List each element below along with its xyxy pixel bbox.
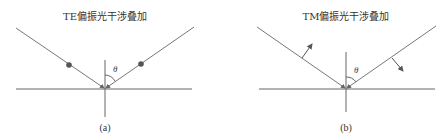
panel-a-title: TE偏振光干涉叠加	[63, 10, 147, 22]
interference-diagram: TE偏振光干涉叠加 θ (a) TM偏振光干涉叠加 θ (b)	[0, 0, 448, 140]
te-dot-left-icon	[66, 62, 72, 68]
tm-arrow-right-icon	[392, 58, 403, 71]
te-dot-right-icon	[138, 61, 144, 67]
panel-a-te: TE偏振光干涉叠加 θ (a)	[16, 10, 194, 134]
incident-ray-right	[347, 26, 436, 88]
theta-label: θ	[113, 64, 118, 74]
panel-a-caption: (a)	[99, 122, 110, 134]
panel-b-caption: (b)	[340, 122, 352, 134]
tm-arrow-left-icon	[302, 44, 312, 58]
panel-b-tm: TM偏振光干涉叠加 θ (b)	[257, 10, 436, 134]
incident-ray-left	[257, 27, 345, 88]
incident-ray-left	[16, 28, 104, 88]
theta-label: θ	[354, 65, 359, 75]
panel-b-title: TM偏振光干涉叠加	[303, 10, 390, 22]
incident-ray-right	[106, 27, 194, 88]
angle-arc	[105, 75, 115, 81]
angle-arc	[346, 77, 356, 82]
